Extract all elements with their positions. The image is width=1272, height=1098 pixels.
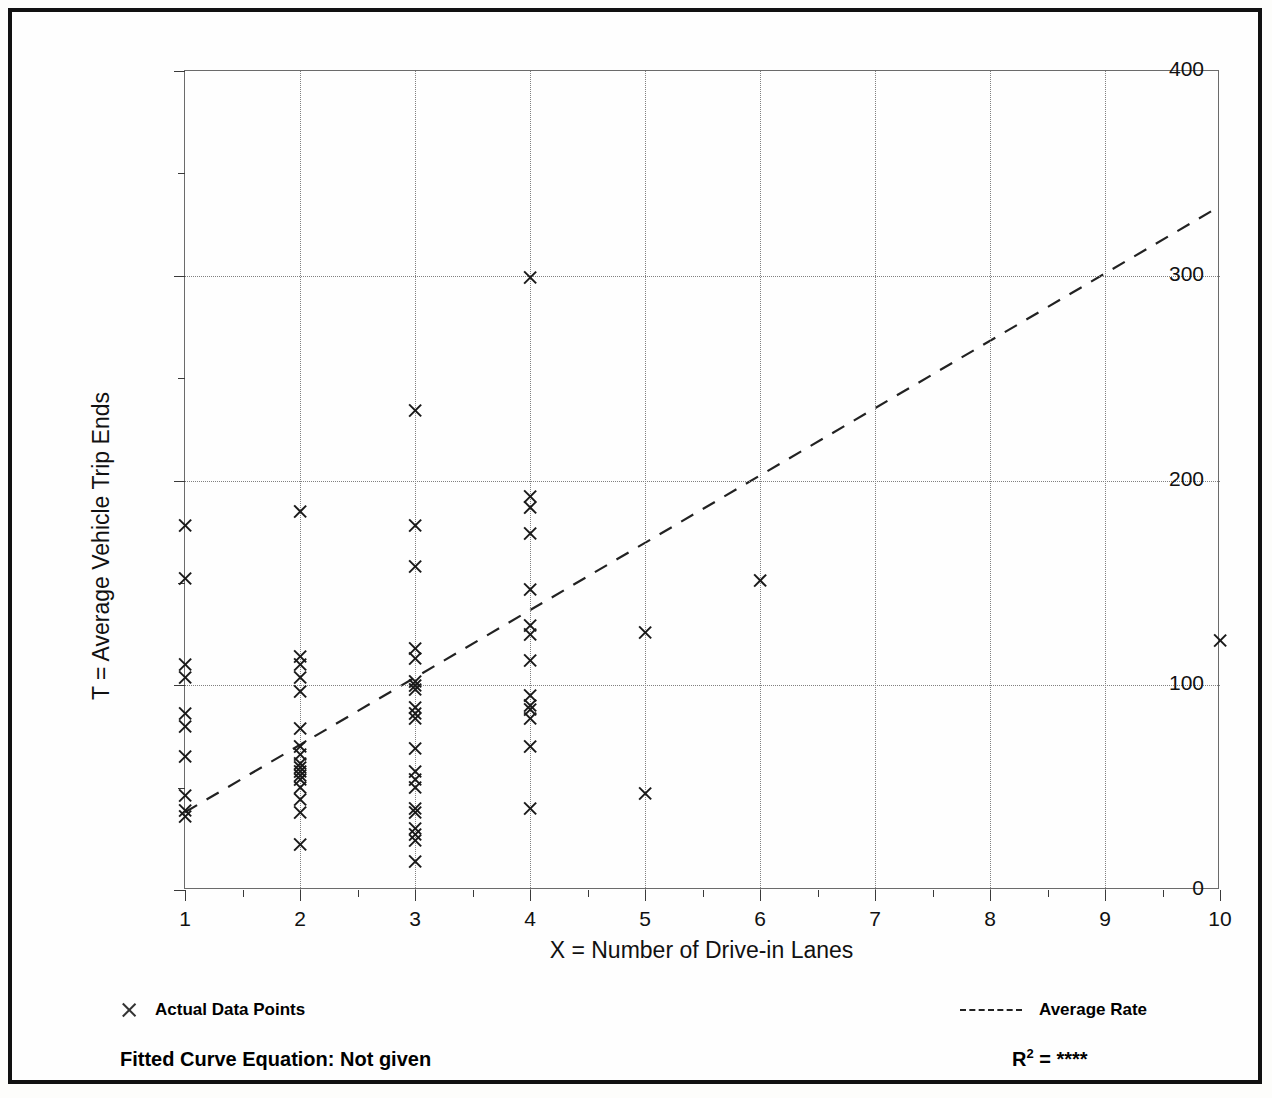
- x-axis-minor-tick: [703, 890, 704, 897]
- x-axis-tick: [415, 890, 416, 901]
- x-axis-tick-label: 9: [1085, 907, 1125, 931]
- y-axis-tick: [174, 890, 185, 891]
- x-axis-label: X = Number of Drive-in Lanes: [184, 937, 1219, 964]
- x-axis-tick: [1220, 890, 1221, 901]
- y-axis-minor-tick: [178, 583, 185, 584]
- y-axis-minor-tick: [178, 788, 185, 789]
- gridline-horizontal: [185, 276, 1220, 277]
- x-axis-tick-label: 10: [1200, 907, 1240, 931]
- r-squared-value: R2 = ****: [1012, 1046, 1088, 1071]
- r2-symbol: R: [1012, 1048, 1026, 1070]
- x-axis-tick-label: 5: [625, 907, 665, 931]
- chart-page: T = Average Vehicle Trip Ends 1234567891…: [0, 0, 1272, 1098]
- r2-stars: ****: [1056, 1048, 1087, 1070]
- legend-actual-label: Actual Data Points: [155, 1000, 305, 1020]
- x-axis-tick: [300, 890, 301, 901]
- legend-average-label: Average Rate: [1039, 1000, 1147, 1020]
- x-axis-minor-tick: [588, 890, 589, 897]
- y-axis-tick-label: 0: [1192, 876, 1204, 900]
- r2-equals: =: [1034, 1048, 1057, 1070]
- x-axis-tick: [530, 890, 531, 901]
- x-axis-tick-label: 3: [395, 907, 435, 931]
- x-axis-tick: [645, 890, 646, 901]
- y-axis-tick: [174, 276, 185, 277]
- legend-actual-data-points: Actual Data Points: [120, 1000, 305, 1020]
- x-axis-minor-tick: [473, 890, 474, 897]
- x-marker-icon: [120, 1001, 138, 1019]
- x-axis-minor-tick: [1163, 890, 1164, 897]
- y-axis-tick-label: 400: [1169, 57, 1204, 81]
- x-axis-tick: [185, 890, 186, 901]
- x-axis-minor-tick: [1048, 890, 1049, 897]
- plot-area: 123456789100100200300400: [184, 70, 1219, 889]
- x-axis-minor-tick: [933, 890, 934, 897]
- x-axis-minor-tick: [818, 890, 819, 897]
- fitted-curve-equation: Fitted Curve Equation: Not given: [120, 1048, 431, 1071]
- outer-frame: T = Average Vehicle Trip Ends 1234567891…: [8, 8, 1262, 1084]
- x-axis-tick-label: 1: [165, 907, 205, 931]
- x-axis-tick: [990, 890, 991, 901]
- y-axis-tick-label: 100: [1169, 671, 1204, 695]
- x-axis-tick-label: 4: [510, 907, 550, 931]
- gridline-horizontal: [185, 481, 1220, 482]
- x-axis-minor-tick: [243, 890, 244, 897]
- x-axis-tick-label: 7: [855, 907, 895, 931]
- x-axis-tick: [1105, 890, 1106, 901]
- y-axis-tick: [174, 481, 185, 482]
- r2-exponent: 2: [1026, 1046, 1033, 1061]
- y-axis-tick: [174, 71, 185, 72]
- x-axis-minor-tick: [358, 890, 359, 897]
- legend-average-rate: Average Rate: [960, 1000, 1147, 1020]
- x-axis-tick-label: 6: [740, 907, 780, 931]
- x-axis-tick: [875, 890, 876, 901]
- y-axis-label: T = Average Vehicle Trip Ends: [88, 392, 115, 700]
- y-axis-tick-label: 200: [1169, 467, 1204, 491]
- y-axis-minor-tick: [178, 378, 185, 379]
- dashed-line-icon: [960, 1009, 1022, 1011]
- x-axis-tick: [760, 890, 761, 901]
- gridline-horizontal: [185, 685, 1220, 686]
- x-axis-tick-label: 8: [970, 907, 1010, 931]
- y-axis-tick-label: 300: [1169, 262, 1204, 286]
- y-axis-tick: [174, 685, 185, 686]
- y-axis-minor-tick: [178, 173, 185, 174]
- x-axis-tick-label: 2: [280, 907, 320, 931]
